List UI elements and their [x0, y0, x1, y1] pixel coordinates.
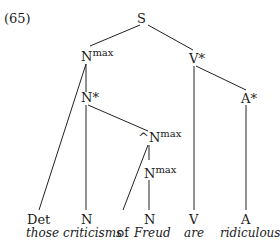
node-label: ^N: [138, 130, 160, 145]
leaf-word-ridiculous: ridiculous: [220, 226, 280, 240]
edge-Vstar-Astar: [196, 66, 246, 90]
leaf-word-are: are: [184, 226, 204, 240]
edge-S-Nmax: [90, 25, 140, 46]
edge-S-Vstar: [148, 25, 193, 50]
node-hat-Nmax: ^Nmax: [138, 131, 181, 145]
leaf-category-det: Det: [27, 213, 50, 226]
leaf-word-freud: Freud: [134, 226, 171, 240]
node-Nmax-low: Nmax: [144, 167, 176, 181]
edge-Nstar-hatNmax: [88, 105, 148, 131]
leaf-category-v: V: [189, 213, 198, 226]
node-Vstar: V*: [189, 52, 205, 65]
node-Nmax-top: Nmax: [81, 50, 113, 64]
example-number: (65): [4, 12, 31, 25]
node-S: S: [137, 12, 146, 25]
node-superscript: max: [92, 47, 113, 58]
leaf-category-n: N: [81, 213, 92, 226]
node-Nstar: N*: [81, 91, 99, 104]
node-Astar: A*: [241, 92, 257, 105]
leaf-word-of: of: [117, 226, 129, 240]
node-superscript: max: [155, 164, 176, 175]
leaf-word-criticisms: criticisms: [63, 226, 122, 240]
leaf-word-those: those: [26, 226, 59, 240]
node-superscript: max: [160, 128, 181, 139]
leaf-category-a: A: [241, 213, 250, 226]
edge-Nmax-Det: [39, 64, 86, 210]
node-label: N: [144, 166, 155, 181]
node-label: N: [81, 49, 92, 64]
leaf-category-n-freud: N: [144, 213, 155, 226]
